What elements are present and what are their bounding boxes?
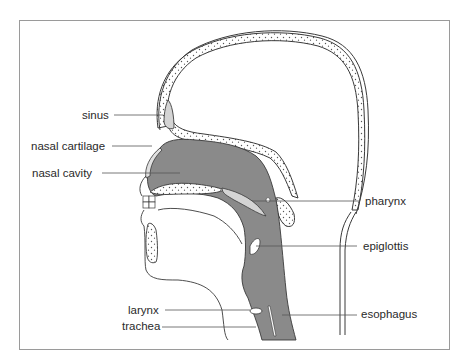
label-esophagus: esophagus bbox=[361, 309, 417, 321]
label-trachea: trachea bbox=[122, 321, 160, 333]
label-epiglottis: epiglottis bbox=[363, 241, 408, 253]
mandible bbox=[146, 223, 158, 263]
label-larynx: larynx bbox=[128, 305, 159, 317]
larynx-shape bbox=[250, 308, 262, 314]
label-nasal-cavity: nasal cavity bbox=[32, 168, 92, 180]
label-pharynx: pharynx bbox=[365, 196, 406, 208]
label-sinus: sinus bbox=[82, 110, 109, 122]
teeth bbox=[143, 196, 155, 208]
tongue bbox=[158, 208, 242, 244]
label-nasal-cartilage: nasal cartilage bbox=[31, 141, 105, 153]
